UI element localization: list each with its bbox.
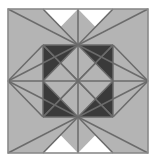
quilt-block-svg	[0, 0, 157, 161]
quilt-block-figure	[0, 0, 157, 161]
